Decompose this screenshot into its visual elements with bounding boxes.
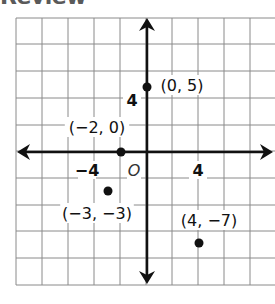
coordinate-plane: 4−44O (0, 5)(−2, 0)(−3, −3)(4, −7) (0, 0, 275, 304)
axes (17, 18, 273, 284)
point-dot (195, 239, 204, 248)
point-label: (4, −7) (181, 211, 237, 230)
point-label: (−3, −3) (62, 204, 132, 223)
point-label: (0, 5) (160, 76, 203, 95)
tick-label: −4 (75, 161, 100, 180)
tick-label: 4 (192, 161, 203, 180)
point-label: (−2, 0) (69, 118, 125, 137)
point-dot (117, 148, 126, 157)
tick-label: 4 (126, 91, 137, 110)
origin-label: O (128, 161, 141, 180)
point-dot (104, 187, 113, 196)
point-dot (143, 83, 152, 92)
